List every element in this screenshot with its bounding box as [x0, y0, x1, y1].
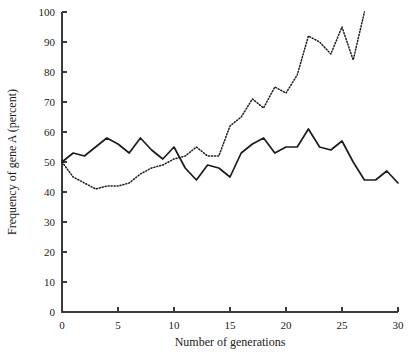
x-tick-label: 25 [337, 319, 349, 331]
y-axis-title: Frequency of gene A (percent) [5, 89, 19, 235]
line-chart: 0102030405060708090100 051015202530 Numb… [0, 0, 419, 352]
y-tick-label: 40 [44, 186, 56, 198]
x-tick-label: 30 [393, 319, 405, 331]
data-series [62, 12, 398, 189]
y-tick-label: 20 [44, 246, 56, 258]
y-tick-label: 100 [39, 6, 56, 18]
x-tick-label: 20 [281, 319, 293, 331]
x-tick-labels: 051015202530 [59, 319, 404, 331]
x-tick-label: 5 [115, 319, 121, 331]
y-tick-label: 30 [44, 216, 56, 228]
y-tick-label: 0 [50, 306, 56, 318]
y-tick-label: 90 [44, 36, 56, 48]
y-tick-label: 50 [44, 156, 56, 168]
axis-spine [62, 12, 398, 312]
axes [62, 12, 398, 312]
chart-figure: 0102030405060708090100 051015202530 Numb… [0, 0, 419, 352]
y-tick-label: 80 [44, 66, 56, 78]
tick-marks [62, 12, 398, 312]
y-tick-label: 60 [44, 126, 56, 138]
series-line-population-2-dotted [62, 12, 364, 189]
y-tick-label: 10 [44, 276, 56, 288]
x-axis-title: Number of generations [175, 335, 286, 349]
y-tick-labels: 0102030405060708090100 [39, 6, 56, 318]
x-tick-label: 0 [59, 319, 65, 331]
series-line-population-1-solid [62, 129, 398, 183]
x-tick-label: 15 [225, 319, 237, 331]
x-tick-label: 10 [169, 319, 181, 331]
y-tick-label: 70 [44, 96, 56, 108]
